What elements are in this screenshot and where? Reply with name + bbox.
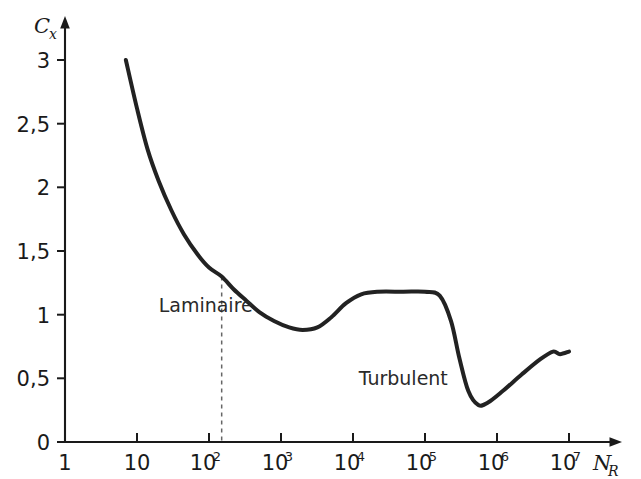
y-ticklabel-1: 1 — [37, 304, 50, 328]
chart-container: 0 0,5 1 1,5 2 2,5 3 1 10 10 2 10 3 — [0, 0, 641, 479]
x-ticklabel-1: 1 — [58, 451, 71, 475]
x-ticklabel-1e6-exponent: 6 — [501, 449, 509, 464]
x-ticklabel-10: 10 — [124, 451, 151, 475]
x-ticklabel-1e4-exponent: 4 — [357, 449, 365, 464]
y-ticklabel-0: 0 — [37, 431, 50, 455]
y-ticklabel-2-5: 2,5 — [17, 113, 50, 137]
chart-background — [0, 0, 641, 479]
x-ticklabel-1e3-exponent: 3 — [285, 449, 293, 464]
laminar-region-label: Laminaire — [159, 294, 253, 316]
x-ticklabel-1e5-exponent: 5 — [429, 449, 437, 464]
y-ticklabel-1-5: 1,5 — [17, 240, 50, 264]
y-ticklabel-2: 2 — [37, 176, 50, 200]
x-ticklabel-1e2-exponent: 2 — [213, 449, 221, 464]
y-ticklabel-0-5: 0,5 — [17, 367, 50, 391]
x-ticklabel-1e7-exponent: 7 — [573, 449, 581, 464]
drag-coefficient-chart: 0 0,5 1 1,5 2 2,5 3 1 10 10 2 10 3 — [0, 0, 641, 479]
y-axis-title-base: C — [34, 14, 50, 38]
turbulent-region-label: Turbulent — [358, 367, 448, 389]
x-axis-title-subscript: R — [607, 463, 619, 479]
y-ticklabel-3: 3 — [37, 49, 50, 73]
y-axis-title-subscript: x — [49, 26, 57, 42]
